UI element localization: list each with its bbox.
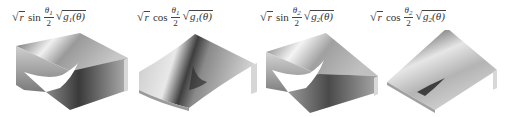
sqrt-r: √r [260, 11, 273, 24]
surface-sheet [387, 30, 497, 110]
trig-function: cos [153, 11, 168, 23]
fraction: θ12 [171, 6, 181, 28]
sqrt-g: √g1(θ) [56, 10, 86, 24]
denominator: 2 [294, 18, 299, 28]
denominator: 2 [406, 18, 411, 28]
surface-plot-sin-2 [258, 30, 387, 117]
sqrt-r: √r [137, 11, 150, 24]
radicand: r [267, 11, 273, 24]
surface-edge [124, 58, 128, 92]
fraction: θ12 [44, 6, 54, 28]
radicand: r [19, 11, 25, 24]
g-arg: (θ) [199, 10, 212, 22]
numerator-sub: 2 [297, 9, 301, 17]
radicand: r [144, 11, 150, 24]
panel-4: √r cos θ22 √g2(θ) [387, 0, 516, 117]
surface-edge [493, 70, 497, 90]
surface-edge [374, 76, 378, 96]
surface-sheet [139, 34, 255, 108]
sqrt-g: √g2(θ) [304, 10, 334, 24]
trig-function: sin [28, 11, 41, 23]
g-arg: (θ) [432, 10, 445, 22]
sqrt-g: √g2(θ) [415, 10, 445, 24]
sqrt-g: √g1(θ) [182, 10, 212, 24]
denominator: 2 [173, 18, 178, 28]
panel-3: √r sin θ22 √g2(θ) [258, 0, 387, 117]
trig-function: cos [386, 11, 401, 23]
sqrt-r: √r [12, 11, 25, 24]
fraction: θ22 [404, 6, 414, 28]
g-arg: (θ) [72, 10, 85, 22]
panel-1: √r sin θ12 √g1(θ) [0, 0, 129, 117]
radicand: r [377, 11, 383, 24]
panel-1-label: √r sin θ12 √g1(θ) [12, 3, 86, 31]
surface-plot-cos-1 [129, 30, 258, 117]
numerator-sub: 2 [409, 9, 413, 17]
panel-4-label: √r cos θ22 √g2(θ) [370, 3, 446, 31]
fraction: θ22 [292, 6, 302, 28]
panel-2: √r cos θ12 √g1(θ) [129, 0, 258, 117]
surface-plot-sin-1 [0, 30, 129, 117]
numerator-sub: 1 [49, 9, 53, 17]
g-arg: (θ) [320, 10, 333, 22]
numerator-sub: 1 [176, 9, 180, 17]
denominator: 2 [46, 18, 51, 28]
panel-2-label: √r cos θ12 √g1(θ) [137, 3, 213, 31]
surface-plot-cos-2 [387, 30, 516, 117]
surface-edge [251, 63, 257, 94]
sqrt-r: √r [370, 11, 383, 24]
trig-function: sin [276, 11, 289, 23]
panel-3-label: √r sin θ22 √g2(θ) [260, 3, 334, 31]
